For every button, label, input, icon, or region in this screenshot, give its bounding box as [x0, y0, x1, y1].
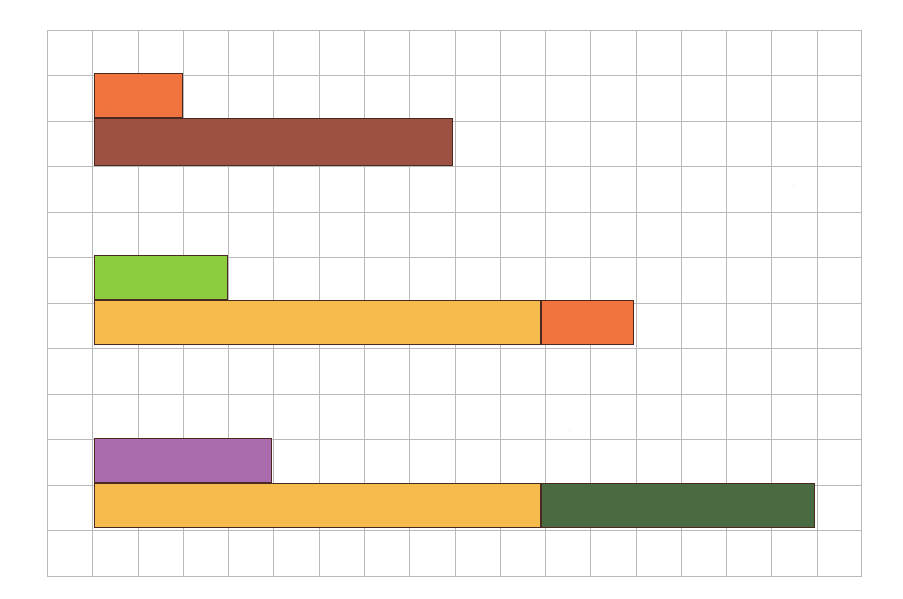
bar-dark-green-bar-segment-group-3 — [541, 483, 815, 528]
screenshot-canvas — [0, 0, 903, 599]
bar-brown-bar-group-1 — [94, 118, 453, 166]
bar-orange-bar-segment-group-2 — [541, 300, 634, 345]
bar-purple-bar-group-3 — [94, 438, 272, 483]
bar-amber-bar-segment-group-2 — [94, 300, 541, 345]
bar-orange-bar-group-1 — [94, 73, 183, 118]
bar-chart-plot-area — [0, 0, 903, 599]
bar-light-green-bar-group-2 — [94, 255, 228, 300]
bar-amber-bar-segment-group-3 — [94, 483, 541, 528]
